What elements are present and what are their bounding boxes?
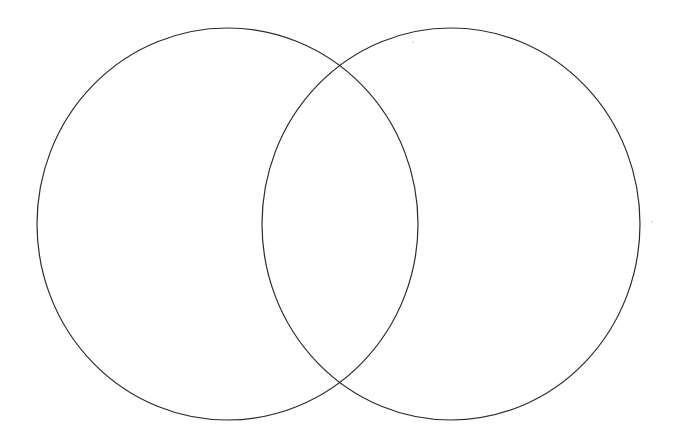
scan-speck: [651, 221, 653, 223]
venn-diagram: [0, 0, 673, 438]
scan-speck: [412, 41, 414, 43]
background: [0, 0, 673, 438]
